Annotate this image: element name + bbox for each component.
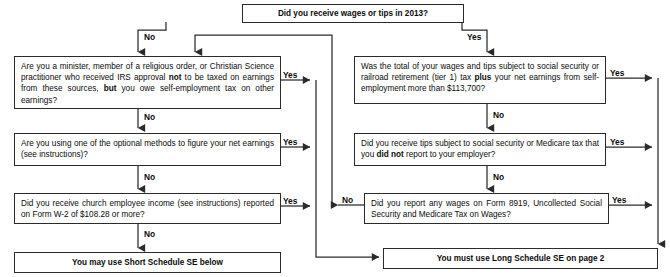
- node-start[interactable]: Did you receive wages or tips in 2013?: [242, 4, 464, 23]
- edge-label-start-yes: Yes: [467, 32, 481, 42]
- schedule-se-flowchart: Did you receive wages or tips in 2013? A…: [0, 0, 670, 277]
- node-optional-methods-question[interactable]: Are you using one of the optional method…: [14, 133, 281, 166]
- node-long-schedule-se-label: You must use Long Schedule SE on page 2: [437, 253, 605, 264]
- edge-label-form-8919-no: No: [342, 195, 353, 205]
- edge-label-optional-yes: Yes: [283, 137, 297, 147]
- edge-label-church-yes: Yes: [283, 196, 297, 206]
- node-short-schedule-se-label: You may use Short Schedule SE below: [72, 257, 223, 268]
- node-minister-question[interactable]: Are you a minister, member of a religiou…: [14, 56, 281, 109]
- edge-label-minister-no: No: [144, 112, 155, 122]
- edge-label-minister-yes: Yes: [283, 70, 297, 80]
- node-start-label: Did you receive wages or tips in 2013?: [278, 8, 428, 19]
- node-unreported-tips-question[interactable]: Did you receive tips subject to social s…: [354, 133, 606, 166]
- edge-label-tips-yes: Yes: [610, 137, 624, 147]
- node-wage-limit-question[interactable]: Was the total of your wages and tips sub…: [354, 56, 606, 104]
- node-short-schedule-se[interactable]: You may use Short Schedule SE below: [14, 252, 281, 273]
- node-church-income-question[interactable]: Did you receive church employee income (…: [14, 193, 281, 224]
- edge-label-tips-no: No: [493, 172, 504, 182]
- edge-label-wage-limit-yes: Yes: [610, 68, 624, 78]
- edge-label-wage-limit-no: No: [493, 110, 504, 120]
- edge-label-start-no: No: [144, 32, 155, 42]
- node-long-schedule-se[interactable]: You must use Long Schedule SE on page 2: [383, 248, 658, 269]
- edge-label-optional-no: No: [144, 172, 155, 182]
- edge-label-form-8919-yes: Yes: [612, 195, 626, 205]
- node-form-8919-question[interactable]: Did you report any wages on Form 8919, U…: [364, 193, 609, 224]
- edge-label-church-no: No: [144, 229, 155, 239]
